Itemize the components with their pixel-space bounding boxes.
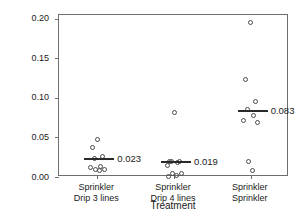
data-point bbox=[179, 171, 184, 176]
data-point bbox=[253, 99, 258, 104]
mean-value-label: 0.023 bbox=[117, 154, 141, 164]
y-tick-mark bbox=[55, 98, 59, 99]
plot-area: 0.000.050.100.150.20 0.0230.0190.083 bbox=[58, 14, 288, 176]
data-point bbox=[250, 168, 255, 173]
mean-line bbox=[161, 161, 191, 163]
y-tick-label: 0.05 bbox=[9, 133, 49, 142]
data-point bbox=[95, 137, 100, 142]
data-point bbox=[102, 167, 107, 172]
x-tick-mark bbox=[97, 175, 98, 179]
x-tick-label-line: Sprinkler bbox=[202, 182, 298, 193]
data-point bbox=[246, 159, 251, 164]
mean-line bbox=[238, 110, 268, 112]
data-point bbox=[241, 118, 246, 123]
x-axis-title: Treatment bbox=[58, 200, 288, 211]
data-point bbox=[166, 174, 171, 179]
data-point bbox=[243, 77, 248, 82]
data-point bbox=[172, 110, 177, 115]
data-point bbox=[255, 120, 260, 125]
y-tick-label: 0.10 bbox=[9, 93, 49, 102]
y-tick-mark bbox=[55, 19, 59, 20]
chart-figure: % Plants with Downy Mildew 0.000.050.100… bbox=[0, 0, 303, 220]
y-tick-mark bbox=[55, 58, 59, 59]
data-point bbox=[251, 113, 256, 118]
data-point bbox=[97, 168, 102, 173]
data-point bbox=[248, 20, 253, 25]
y-tick-mark bbox=[55, 137, 59, 138]
y-tick-label: 0.20 bbox=[9, 14, 49, 23]
mean-value-label: 0.019 bbox=[194, 157, 218, 167]
mean-value-label: 0.083 bbox=[271, 106, 295, 116]
mean-line bbox=[84, 158, 114, 160]
y-tick-label: 0.15 bbox=[9, 54, 49, 63]
y-tick-mark bbox=[55, 177, 59, 178]
data-point bbox=[90, 145, 95, 150]
data-point bbox=[165, 163, 170, 168]
x-tick-mark bbox=[251, 175, 252, 179]
data-point bbox=[174, 173, 179, 178]
y-tick-label: 0.00 bbox=[9, 173, 49, 182]
